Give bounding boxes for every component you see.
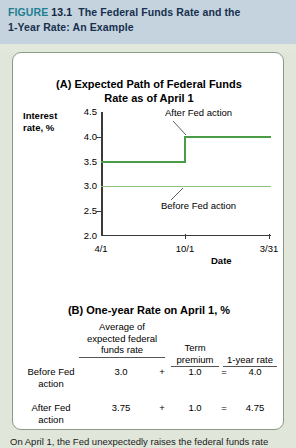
header-avg-line2: expected federal — [77, 333, 167, 345]
row1-label-line1: Before Fed — [17, 366, 85, 378]
y-tick-label-4-5: 4.5 — [71, 107, 97, 117]
y-tick-label-3-0: 3.0 — [71, 181, 97, 191]
table-row: Before Fed action 3.0 + 1.0 = 4.0 — [13, 365, 285, 397]
header-oneyear-text: 1-year rate — [221, 354, 279, 366]
row2-term-value: 1.0 — [175, 402, 215, 414]
annotation-before-leader-line — [101, 112, 271, 236]
row1-oneyear-value: 4.0 — [233, 366, 277, 378]
figure-title-line2: 1-Year Rate: An Example — [8, 20, 286, 35]
row2-equals-sign: = — [215, 402, 233, 414]
table-header-average-funds-rate: Average of expected federal funds rate — [77, 321, 167, 356]
header-avg-line3: funds rate — [77, 344, 167, 356]
x-tick-label-3-31: 3/31 — [249, 243, 289, 254]
header-term-line2: premium — [169, 354, 221, 366]
figure-keyword: FIGURE — [8, 6, 48, 18]
figure-title-line1: The Federal Funds Rate and the — [78, 6, 240, 18]
row2-label-line2: action — [17, 414, 85, 426]
table-header-one-year-rate: 1-year rate — [221, 354, 279, 366]
row-label-after-fed-action: After Fed action — [17, 402, 85, 425]
y-tick-label-2-5: 2.5 — [71, 206, 97, 216]
panel-a-title-line1: (A) Expected Path of Federal Funds — [13, 77, 285, 91]
header-term-line1: Term — [169, 342, 221, 354]
y-tick-label-2-0: 2.0 — [71, 231, 97, 241]
header-avg-rule — [79, 357, 165, 358]
row2-label-line1: After Fed — [17, 402, 85, 414]
figure-panel: (A) Expected Path of Federal Funds Rate … — [12, 52, 284, 430]
x-tick-label-4-1: 4/1 — [81, 243, 121, 254]
panel-a-title: (A) Expected Path of Federal Funds Rate … — [13, 77, 285, 105]
row1-label-line2: action — [17, 378, 85, 390]
row2-plus-sign: + — [153, 402, 171, 414]
figure-header-band: FIGURE 13.1 The Federal Funds Rate and t… — [0, 0, 296, 44]
row-label-before-fed-action: Before Fed action — [17, 366, 85, 389]
y-tick-label-group: 4.5 4.0 3.5 3.0 2.5 2.0 — [71, 112, 97, 236]
row1-equals-sign: = — [215, 366, 233, 378]
header-understrip — [0, 44, 296, 52]
row1-plus-sign: + — [153, 366, 171, 378]
figure-header-line1: FIGURE 13.1 The Federal Funds Rate and t… — [8, 5, 286, 20]
panel-b-title: (B) One-year Rate on April 1, % — [13, 303, 285, 317]
y-tick-label-3-5: 3.5 — [71, 157, 97, 167]
table-header-term-premium: Term premium — [169, 342, 221, 365]
table-row: After Fed action 3.75 + 1.0 = 4.75 — [13, 397, 285, 429]
figure-root: FIGURE 13.1 The Federal Funds Rate and t… — [0, 0, 296, 448]
panel-a-title-line2: Rate as of April 1 — [13, 91, 285, 105]
row2-avg-value: 3.75 — [91, 402, 151, 414]
x-tick-label-10-1: 10/1 — [165, 243, 205, 254]
figure-number: 13.1 — [51, 6, 72, 18]
table-header-row: Average of expected federal funds rate T… — [13, 321, 285, 365]
x-axis-label: Date — [211, 255, 281, 266]
y-tick-label-4-0: 4.0 — [71, 132, 97, 142]
row1-term-value: 1.0 — [175, 366, 215, 378]
row1-avg-value: 3.0 — [91, 366, 151, 378]
panel-a-plot-area: After Fed action Before Fed action 4/1 1… — [101, 112, 271, 236]
header-avg-line1: Average of — [77, 321, 167, 333]
row2-oneyear-value: 4.75 — [233, 402, 277, 414]
figure-caption: On April 1, the Fed unexpectedly raises … — [10, 436, 296, 448]
panel-b-table: Average of expected federal funds rate T… — [13, 321, 285, 429]
